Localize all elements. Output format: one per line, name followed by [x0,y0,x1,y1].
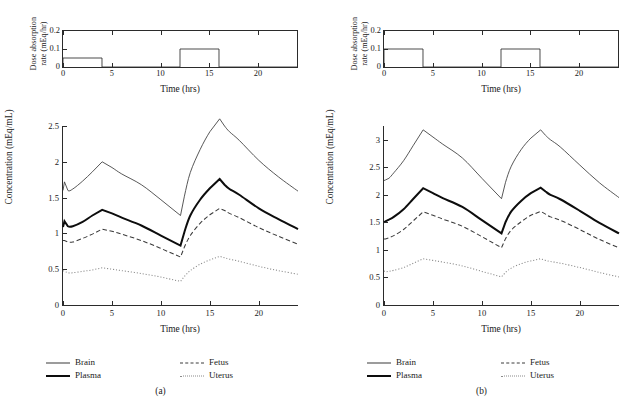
concentration-chart-x-tick-mark [384,301,385,305]
concentration-chart-y-tick-mark [384,140,388,141]
concentration-chart-x-tick-label: 10 [157,309,166,318]
dose-chart-x-tick-label: 10 [156,70,164,78]
dose-chart-x-tick-mark-top [112,31,113,35]
dose-chart-a: Dose absorptionrate (mEq/hr)0.20.1005101… [0,0,321,108]
concentration-chart-y-tick-mark [63,126,67,127]
concentration-chart-x-tick-mark [210,301,211,305]
legend-line-glyph [180,362,204,363]
dose-y-label-line-1: Dose absorption [29,17,39,70]
dose-y-label-line-2: rate (mEq/hr) [360,17,370,70]
dose-chart-x-axis-label: Time (hrs) [62,84,298,94]
concentration-chart-x-axis-label: Time (hrs) [62,324,298,334]
dose-chart-y-tick-mark [63,67,67,68]
legend-item-uterus: Uterus [501,371,554,380]
concentration-chart-plot-area: 00.511.522.5305101520 [383,126,619,306]
dose-chart-x-tick-mark [112,63,113,67]
dose-chart-x-tick-mark-top [258,31,259,35]
dose-chart-x-axis-label: Time (hrs) [383,84,619,94]
dose-chart-y-tick-label: 0.2 [371,27,381,35]
concentration-chart-y-tick-mark [384,222,388,223]
legend-item-plasma: Plasma [367,371,422,380]
dose-chart-y-tick-label: 0 [56,63,60,71]
dose-chart-x-tick-mark [433,63,434,67]
legend-item-fetus: Fetus [501,358,550,367]
concentration-chart-x-tick-label: 5 [431,309,435,318]
concentration-chart-a: Concentration (mEq/mL)00.511.522.5051015… [0,112,321,344]
dose-rate-line [63,49,297,67]
legend-label-brain: Brain [396,358,416,367]
legend-swatch-fetus [501,358,525,367]
legend-line-glyph [46,362,70,363]
legend-swatch-uterus [180,371,204,380]
concentration-chart-x-tick-mark [482,301,483,305]
dose-chart-x-tick-mark [161,63,162,67]
legend-label-brain: Brain [75,358,95,367]
legend-item-uterus: Uterus [180,371,233,380]
dose-chart-y-tick-mark [384,49,388,50]
series-line-fetus [384,211,619,247]
concentration-chart-svg [63,126,298,305]
concentration-chart-y-tick-label: 3 [376,135,380,144]
dose-chart-x-tick-mark-top [63,31,64,35]
dose-chart-y-tick-label: 0.1 [371,45,381,53]
legend-swatch-plasma [367,371,391,380]
series-line-brain [63,119,298,216]
concentration-chart-x-tick-label: 5 [110,309,114,318]
concentration-chart-y-tick-label: 0 [376,301,380,310]
dose-y-label-line-1: Dose absorption [350,17,360,70]
dose-chart-y-tick-mark [63,49,67,50]
concentration-chart-x-tick-label: 15 [527,309,536,318]
concentration-chart-x-tick-mark [531,301,532,305]
dose-chart-x-tick-mark [530,63,531,67]
series-line-brain [384,130,619,199]
dose-chart-x-tick-mark [209,63,210,67]
legend-line-glyph [501,375,525,376]
dose-y-label-line-2: rate (mEq/hr) [39,17,49,70]
legend-item-brain: Brain [367,358,416,367]
dose-chart-y-tick-label: 0.2 [50,27,60,35]
dose-chart-x-tick-label: 20 [575,70,583,78]
dose-chart-x-tick-mark-top [433,31,434,35]
figure-container: Dose absorptionrate (mEq/hr)0.20.1005101… [0,0,642,406]
concentration-chart-y-tick-mark [384,250,388,251]
dose-chart-x-tick-mark [579,63,580,67]
chart-legend: BrainPlasmaFetusUterus [46,358,296,384]
concentration-chart-plot-area: 00.511.522.505101520 [62,126,298,306]
legend-label-plasma: Plasma [396,371,422,380]
legend-line-glyph [180,375,204,376]
concentration-chart-x-tick-mark [259,301,260,305]
concentration-chart-x-tick-label: 15 [206,309,215,318]
dose-chart-y-tick-label: 0 [377,63,381,71]
legend-line-glyph [501,362,525,363]
concentration-chart-y-tick-label: 0.5 [369,273,380,282]
concentration-chart-y-tick-label: 2 [55,158,59,167]
legend-label-plasma: Plasma [75,371,101,380]
dose-chart-x-tick-mark [482,63,483,67]
legend-item-brain: Brain [46,358,95,367]
dose-chart-x-tick-mark-top [384,31,385,35]
legend-line-glyph [367,375,391,377]
dose-chart-x-tick-label: 0 [382,70,386,78]
dose-chart-x-tick-label: 10 [477,70,485,78]
concentration-chart-y-tick-label: 0.5 [48,265,59,274]
dose-chart-plot-area: 0.20.1005101520 [383,30,619,68]
concentration-chart-y-tick-mark [63,233,67,234]
dose-chart-x-tick-label: 5 [431,70,435,78]
panel-caption: (b) [321,386,642,396]
concentration-chart-y-tick-label: 1 [55,229,59,238]
legend-line-glyph [367,362,391,363]
dose-rate-line [384,49,618,67]
concentration-chart-x-tick-label: 20 [255,309,264,318]
dose-chart-x-tick-mark-top [209,31,210,35]
concentration-chart-y-tick-label: 1 [376,246,380,255]
dose-chart-y-tick-mark [384,67,388,68]
concentration-chart-y-tick-label: 2.5 [369,163,380,172]
panel-caption: (a) [0,386,321,396]
dose-chart-x-tick-label: 0 [61,70,65,78]
concentration-chart-x-axis-label: Time (hrs) [383,324,619,334]
dose-chart-svg [384,31,618,67]
concentration-chart-x-tick-label: 10 [478,309,487,318]
concentration-chart-x-tick-mark [112,301,113,305]
dose-chart-svg [63,31,297,67]
chart-legend: BrainPlasmaFetusUterus [367,358,617,384]
